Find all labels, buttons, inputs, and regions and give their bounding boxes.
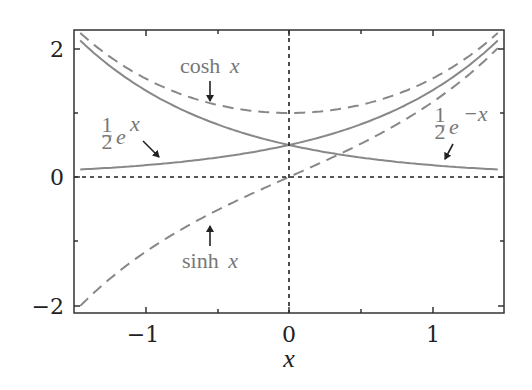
chart-svg: 2 0 −2 −1 0 1 x cosh x sinh x 1 2 e x 1 … bbox=[0, 0, 532, 390]
e-base: e bbox=[449, 114, 459, 139]
e-base: e bbox=[116, 124, 126, 149]
half-exp-label: 1 2 e x bbox=[102, 111, 141, 154]
half-denominator: 2 bbox=[435, 119, 446, 144]
exp-pos: x bbox=[129, 111, 140, 136]
ytick-label-m2: −2 bbox=[32, 294, 64, 319]
cosh-label-fn: cosh bbox=[180, 53, 220, 78]
cosh-label-var: x bbox=[229, 53, 240, 78]
xtick-label-m1: −1 bbox=[127, 322, 159, 347]
cosh-label: cosh x bbox=[180, 53, 240, 78]
xtick-label-1: 1 bbox=[426, 322, 440, 347]
x-axis-title: x bbox=[282, 344, 295, 373]
ytick-label-0: 0 bbox=[50, 165, 64, 190]
half-exp-arrow-icon bbox=[143, 141, 159, 157]
ytick-label-2: 2 bbox=[50, 37, 64, 62]
half-denominator: 2 bbox=[102, 129, 113, 154]
half-exp-neg-arrow-icon bbox=[445, 144, 453, 159]
sinh-label: sinh x bbox=[182, 248, 238, 273]
sinh-label-fn: sinh bbox=[182, 248, 219, 273]
half-exp-neg-label: 1 2 e −x bbox=[435, 101, 488, 144]
sinh-label-var: x bbox=[227, 248, 238, 273]
exp-neg: −x bbox=[463, 101, 488, 126]
